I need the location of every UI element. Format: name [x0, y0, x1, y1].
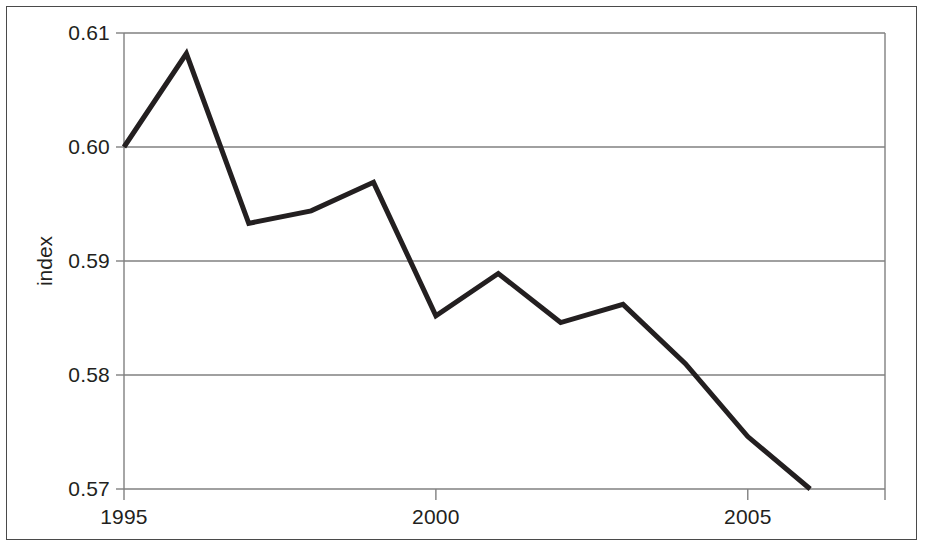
- x-axis-ticks-group: [124, 33, 885, 500]
- y-tick-label: 0.61: [0, 21, 110, 45]
- line-chart-plot: [0, 0, 925, 546]
- y-tick-label: 0.58: [0, 363, 110, 387]
- y-axis-title: index: [33, 211, 57, 311]
- y-tick-label: 0.60: [0, 135, 110, 159]
- x-tick-label: 1995: [100, 505, 148, 529]
- y-axis-ticks-group: [116, 33, 124, 489]
- chart-figure: 0.610.600.590.580.57 199520002005 index: [0, 0, 925, 546]
- gridlines-group: [124, 33, 885, 489]
- y-tick-label: 0.57: [0, 477, 110, 501]
- data-series-line: [124, 54, 810, 489]
- x-tick-label: 2000: [412, 505, 460, 529]
- x-tick-label: 2005: [724, 505, 772, 529]
